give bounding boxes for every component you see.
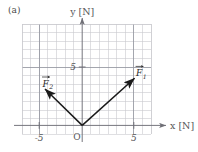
grid-minor-horizontal xyxy=(22,24,151,134)
y-tick-label-5: 5 xyxy=(70,62,76,72)
grid-major xyxy=(22,24,151,134)
figure-panel: (a) xyxy=(0,0,198,152)
vector-f2-arrow xyxy=(45,89,82,125)
svg-text:F: F xyxy=(135,68,143,78)
svg-text:F: F xyxy=(41,79,49,89)
grid-minor-vertical xyxy=(22,24,151,134)
vector-f2-label: F 2 xyxy=(41,76,53,91)
x-tick-label-neg5: -5 xyxy=(35,133,44,143)
origin-label: O xyxy=(73,132,80,142)
svg-text:2: 2 xyxy=(48,83,53,90)
x-axis-label: x [N] xyxy=(170,120,194,131)
force-vector-plot: -5 5 5 O x [N] y [N] F 1 F 2 xyxy=(0,0,198,152)
plot-frame xyxy=(22,24,151,134)
y-axis-label: y [N] xyxy=(69,6,94,17)
x-tick-label-pos5: 5 xyxy=(131,133,137,143)
svg-text:1: 1 xyxy=(143,73,147,80)
